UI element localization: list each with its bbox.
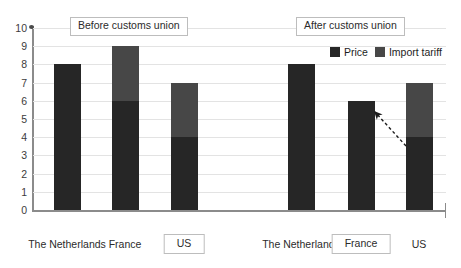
category-label: US <box>164 234 205 254</box>
bar-segment-price <box>171 137 198 210</box>
y-axis-tick-label: 2 <box>5 169 27 180</box>
gridline <box>33 137 446 138</box>
x-axis-end-tick <box>445 203 446 218</box>
y-axis-tick-label: 8 <box>5 59 27 70</box>
bar-segment-price <box>348 101 375 210</box>
gridline <box>33 119 446 120</box>
y-axis-tick-label: 0 <box>5 205 27 216</box>
bar <box>112 46 139 210</box>
category-label: France <box>109 239 142 250</box>
bar <box>288 64 315 210</box>
bar <box>54 64 81 210</box>
y-axis-tick-label: 7 <box>5 78 27 89</box>
category-label: The Netherlands <box>262 239 340 250</box>
bar <box>348 101 375 210</box>
bar-segment-price <box>288 64 315 210</box>
bar-segment-import-tariff <box>171 83 198 138</box>
bar-segment-import-tariff <box>112 46 139 101</box>
y-axis-tick-label: 1 <box>5 187 27 198</box>
gridline <box>33 155 446 156</box>
y-axis-tick-label: 9 <box>5 41 27 52</box>
y-axis-tick-label: 5 <box>5 114 27 125</box>
legend-label: Import tariff <box>389 47 442 58</box>
category-label: France <box>332 234 391 254</box>
legend-item: Import tariff <box>375 47 442 58</box>
x-axis-line <box>33 210 446 212</box>
section-title-before: Before customs union <box>70 17 188 36</box>
y-axis-tick-label: 6 <box>5 96 27 107</box>
chart-legend: PriceImport tariff <box>330 47 442 58</box>
y-axis-tick-label: 10 <box>5 23 27 34</box>
gridline <box>33 192 446 193</box>
gridline <box>33 101 446 102</box>
category-label: The Netherlands <box>28 239 106 250</box>
legend-swatch <box>375 47 385 57</box>
chart-container: 109876543210 Before customs union After … <box>0 0 461 268</box>
gridline <box>33 174 446 175</box>
section-title-after: After customs union <box>296 17 405 36</box>
gridline <box>33 64 446 65</box>
bar-segment-price <box>112 101 139 210</box>
legend-label: Price <box>344 47 368 58</box>
y-axis-tick-label: 4 <box>5 132 27 143</box>
category-label: US <box>412 239 427 250</box>
bar-segment-import-tariff <box>406 83 433 138</box>
bar <box>171 83 198 210</box>
gridline <box>33 83 446 84</box>
legend-item: Price <box>330 47 368 58</box>
bar-segment-price <box>54 64 81 210</box>
y-axis-tick-label: 3 <box>5 150 27 161</box>
bar <box>406 83 433 210</box>
bar-segment-price <box>406 137 433 210</box>
legend-swatch <box>330 47 340 57</box>
